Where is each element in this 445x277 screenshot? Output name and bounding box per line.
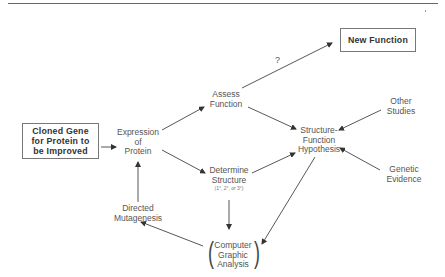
node-label-line: for Protein to <box>23 136 98 146</box>
node-label-line: Studies <box>383 107 419 117</box>
node-label-line: Evidence <box>384 175 424 185</box>
edge-assess-to-newfunction <box>242 43 332 88</box>
node-directed-mutagenesis: Directed Mutagenesis <box>110 204 166 223</box>
node-assess-function: Assess Function <box>206 90 246 109</box>
edge-other-to-hypothesis <box>339 110 381 130</box>
edge-expression-to-assess <box>162 107 204 130</box>
edge-computer-to-mutagenesis <box>141 222 203 246</box>
node-label-line: Function <box>206 100 246 110</box>
node-label-line: Structure <box>204 176 254 186</box>
node-label: New Function <box>348 35 408 45</box>
node-hypothesis: Structure- Function Hypothesis <box>294 126 344 155</box>
right-paren: ) <box>254 238 260 268</box>
node-determine-structure: Determine Structure (1°, 2°, or 3°) <box>204 166 254 192</box>
node-note: (1°, 2°, or 3°) <box>204 185 254 192</box>
edge-expression-to-determine <box>162 150 205 173</box>
edge-label-question: ? <box>275 55 280 65</box>
node-label-line: be Improved <box>23 146 98 156</box>
node-computer-graphic: Computer Graphic Analysis <box>211 241 255 270</box>
node-genetic-evidence: Genetic Evidence <box>384 165 424 184</box>
node-label-line: Hypothesis <box>294 145 344 155</box>
edge-assess-to-hypothesis <box>248 107 296 129</box>
node-cloned-gene: Cloned Gene for Protein to be Improved <box>22 123 99 159</box>
node-label-line: Cloned Gene <box>23 126 98 136</box>
edge-determine-to-hypothesis <box>252 153 295 173</box>
edge-hypothesis-to-computer <box>262 157 315 244</box>
edge-genetic-to-hypothesis <box>340 148 380 170</box>
node-label-line: Mutagenesis <box>110 214 166 224</box>
node-other-studies: Other Studies <box>383 97 419 116</box>
node-expression: Expression of Protein <box>114 128 162 157</box>
node-new-function: New Function <box>340 28 416 52</box>
node-label-line: Protein <box>114 147 162 157</box>
node-label-line: Analysis <box>211 260 255 270</box>
